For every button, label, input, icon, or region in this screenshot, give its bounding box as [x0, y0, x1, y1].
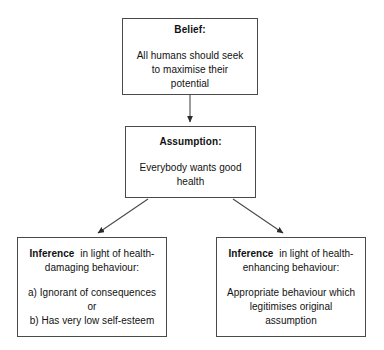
node-inference-enhancing-heading-line-1: Inference in light of health-: [223, 247, 360, 261]
node-assumption: Assumption: Everybody wants good health: [125, 126, 256, 198]
connector-assumption-to-inference-enhancing: [233, 199, 283, 233]
node-inference-health-enhancing: Inference in light of health- enhancing …: [216, 237, 366, 337]
node-inference-damaging-heading-line-2: damaging behaviour:: [45, 261, 139, 275]
node-inference-damaging-heading-line-1: Inference in light of health-: [24, 247, 161, 261]
node-inference-damaging-option-a: a) Ignorant of consequences: [24, 286, 160, 300]
node-assumption-body-line-2: health: [177, 175, 205, 189]
node-belief: Belief: All humans should seek to maximi…: [122, 18, 258, 95]
node-inference-damaging-conjunction: or: [88, 300, 97, 314]
inference-label-rest: in light of health-: [80, 248, 154, 259]
connector-assumption-to-inference-damaging: [98, 199, 148, 233]
diagram-canvas: Belief: All humans should seek to maximi…: [0, 0, 384, 350]
node-inference-enhancing-body-line-1: Appropriate behaviour which: [227, 286, 355, 300]
inference-label-bold: Inference: [229, 248, 274, 259]
inference-label-rest: in light of health-: [279, 248, 353, 259]
node-assumption-heading: Assumption:: [159, 135, 221, 148]
node-inference-enhancing-body-line-3: assumption: [265, 314, 317, 328]
node-belief-body-line-3: potential: [171, 77, 209, 91]
node-inference-health-damaging: Inference in light of health- damaging b…: [17, 237, 167, 337]
node-belief-heading: Belief:: [174, 23, 205, 36]
node-assumption-body-line-1: Everybody wants good: [139, 161, 241, 175]
node-belief-body-line-2: to maximise their: [152, 63, 228, 77]
node-inference-enhancing-body-line-2: legitimises original: [250, 300, 333, 314]
node-inference-enhancing-heading-line-2: enhancing behaviour:: [243, 261, 340, 275]
node-belief-body-line-1: All humans should seek: [137, 49, 244, 63]
inference-label-bold: Inference: [30, 248, 75, 259]
node-inference-damaging-option-b: b) Has very low self-esteem: [26, 314, 159, 328]
